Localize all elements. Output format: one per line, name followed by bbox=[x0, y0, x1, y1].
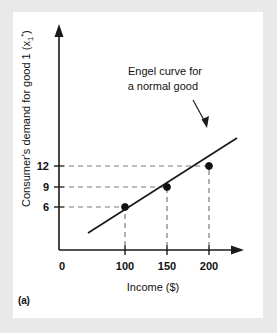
y-axis-title-main: Consumer's demand for good 1 (x bbox=[20, 41, 32, 207]
x-tick-label-150: 150 bbox=[158, 260, 176, 272]
y-tick-label-9: 9 bbox=[43, 181, 49, 193]
figure-panel: 12 9 6 0 100 150 200 Income ($) Consumer… bbox=[13, 12, 263, 318]
y-tick-label-6: 6 bbox=[43, 201, 49, 213]
annotation-line-2: a normal good bbox=[128, 80, 198, 92]
x-tick-label-200: 200 bbox=[200, 260, 218, 272]
data-point-150-9 bbox=[164, 184, 171, 191]
x-tick-label-100: 100 bbox=[116, 260, 134, 272]
x-tick-label-0: 0 bbox=[59, 260, 65, 272]
y-tick-label-12: 12 bbox=[37, 160, 49, 172]
cropped-text-artifact bbox=[60, 0, 220, 10]
engel-curve-chart: 12 9 6 0 100 150 200 Income ($) Consumer… bbox=[13, 12, 263, 318]
annotation-pointer-icon bbox=[193, 100, 209, 128]
annotation-line-1: Engel curve for bbox=[128, 65, 202, 77]
y-axis-title: Consumer's demand for good 1 (x1*) bbox=[19, 30, 35, 207]
data-point-100-6 bbox=[122, 204, 129, 211]
engel-curve-line bbox=[88, 138, 237, 233]
guide-lines bbox=[60, 166, 209, 248]
y-axis-title-close: ) bbox=[20, 30, 32, 34]
data-point-200-12 bbox=[206, 163, 213, 170]
figure-root: 12 9 6 0 100 150 200 Income ($) Consumer… bbox=[0, 0, 277, 333]
x-axis-title: Income ($) bbox=[127, 281, 180, 293]
x-axis bbox=[59, 246, 244, 255]
y-axis bbox=[55, 24, 64, 250]
figure-caption: (a) bbox=[18, 295, 30, 306]
